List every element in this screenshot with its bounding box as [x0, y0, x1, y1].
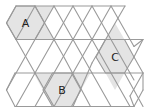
- tiling-edge: [130, 96, 134, 107]
- tiling-edge: [16, 73, 35, 107]
- shaded-triangle: [106, 73, 125, 90]
- tiling-edge: [134, 40, 143, 58]
- tiling-edge: [130, 73, 134, 80]
- hexagon-label-b: B: [58, 84, 66, 97]
- tiling-edge: [92, 73, 111, 107]
- hexagon-label-c: C: [111, 51, 119, 64]
- tiling-edge: [134, 57, 143, 73]
- hexagon-label-a: A: [22, 17, 30, 30]
- tiling-edge: [7, 90, 16, 107]
- tiling-edge: [7, 73, 16, 90]
- trihexagonal-tiling-diagram: ACB: [0, 0, 158, 110]
